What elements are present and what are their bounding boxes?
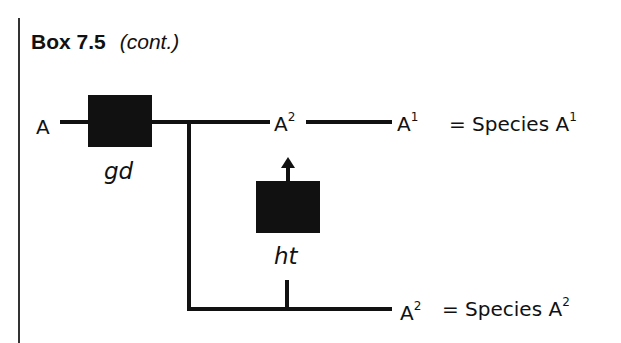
arrow-up-icon bbox=[0, 0, 621, 343]
a2-end-label: A2 bbox=[400, 302, 421, 323]
species-a2-label: = Species A2 bbox=[442, 298, 570, 319]
